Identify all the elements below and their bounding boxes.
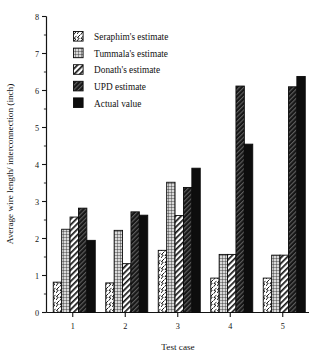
bar[interactable] <box>78 208 86 312</box>
bar[interactable] <box>272 255 280 312</box>
bar[interactable] <box>114 230 122 312</box>
bar[interactable] <box>219 254 227 312</box>
x-tick-label: 3 <box>176 322 180 331</box>
legend-swatch <box>74 65 84 75</box>
bar[interactable] <box>131 212 139 313</box>
legend-label: Donath's estimate <box>94 65 160 75</box>
y-tick-label: 8 <box>35 13 39 22</box>
bar[interactable] <box>297 76 305 312</box>
bar[interactable] <box>53 282 61 312</box>
bar[interactable] <box>228 254 236 312</box>
legend-swatch <box>74 81 84 91</box>
bar[interactable] <box>288 87 296 313</box>
y-tick-label: 0 <box>35 309 39 318</box>
bar[interactable] <box>87 240 95 312</box>
bar[interactable] <box>280 255 288 312</box>
bar[interactable] <box>175 216 183 313</box>
bar[interactable] <box>263 278 271 312</box>
bar[interactable] <box>123 264 131 313</box>
y-tick-label: 6 <box>35 87 39 96</box>
legend-swatch <box>74 48 84 58</box>
x-axis-title: Test case <box>161 342 194 352</box>
y-tick-label: 4 <box>35 161 39 170</box>
bar-chart: 012345678 Average wire length/ interconn… <box>0 0 318 357</box>
bar[interactable] <box>244 144 252 312</box>
x-tick-label: 2 <box>123 322 127 331</box>
chart-figure: 012345678 Average wire length/ interconn… <box>0 0 318 357</box>
y-tick-label: 5 <box>35 124 39 133</box>
legend-swatch <box>74 98 84 108</box>
x-tick-label: 4 <box>228 322 232 331</box>
y-axis-tick-labels: 012345678 <box>35 13 39 318</box>
legend-swatch <box>74 32 84 42</box>
bar[interactable] <box>211 278 219 312</box>
y-tick-label: 1 <box>35 272 39 281</box>
bar[interactable] <box>183 187 191 312</box>
y-axis-title: Average wire length/ interconnection (in… <box>5 84 15 245</box>
bar[interactable] <box>70 217 78 312</box>
y-tick-label: 3 <box>35 198 39 207</box>
bar[interactable] <box>139 215 147 312</box>
bar[interactable] <box>167 182 175 312</box>
y-tick-label: 7 <box>35 50 39 59</box>
y-tick-label: 2 <box>35 235 39 244</box>
bar[interactable] <box>106 283 114 313</box>
legend-label: UPD estimate <box>94 82 146 92</box>
bar[interactable] <box>192 168 200 312</box>
bar[interactable] <box>158 250 166 312</box>
bar[interactable] <box>62 229 70 312</box>
x-tick-label: 1 <box>71 322 75 331</box>
legend-label: Actual value <box>94 99 141 109</box>
x-tick-label: 5 <box>281 322 285 331</box>
legend-label: Tummala's estimate <box>94 49 168 59</box>
bar[interactable] <box>236 86 244 312</box>
legend-label: Seraphim's estimate <box>94 32 168 42</box>
